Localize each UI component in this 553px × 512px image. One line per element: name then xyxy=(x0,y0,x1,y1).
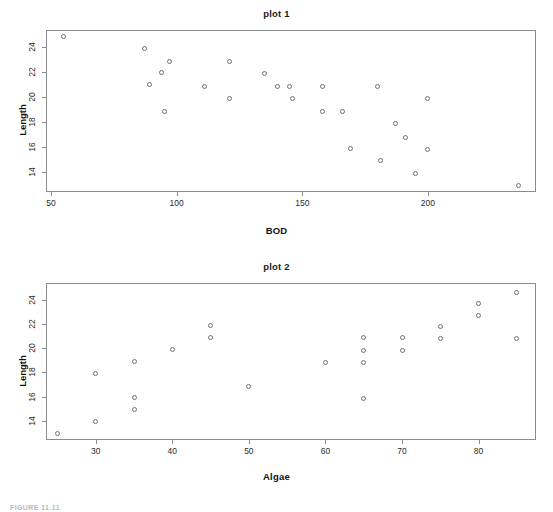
y-tick-label: 22 xyxy=(27,68,37,77)
y-tick-label: 22 xyxy=(27,319,37,328)
data-point xyxy=(287,84,292,89)
data-point xyxy=(227,96,232,101)
y-axis-title-2: Length xyxy=(17,355,28,387)
data-point xyxy=(403,135,408,140)
y-tick-mark xyxy=(42,97,46,98)
data-point xyxy=(167,59,172,64)
y-tick-label: 18 xyxy=(27,368,37,377)
data-point xyxy=(147,82,152,87)
y-tick-mark xyxy=(42,421,46,422)
data-point xyxy=(159,70,164,75)
plot-frame-1 xyxy=(46,30,536,192)
y-tick-mark xyxy=(42,47,46,48)
data-point xyxy=(438,336,443,341)
y-tick-label: 16 xyxy=(27,142,37,151)
x-tick-label: 40 xyxy=(168,446,177,456)
figure-caption: FIGURE 11.11 xyxy=(10,504,60,512)
data-point xyxy=(275,84,280,89)
data-point xyxy=(142,46,147,51)
x-tick-mark xyxy=(402,440,403,444)
y-tick-label: 24 xyxy=(27,43,37,52)
y-tick-label: 20 xyxy=(27,343,37,352)
data-point xyxy=(202,84,207,89)
y-axis-title-1: Length xyxy=(17,104,28,136)
x-tick-mark xyxy=(302,192,303,196)
plot-frame-2 xyxy=(46,283,536,440)
x-tick-mark xyxy=(96,440,97,444)
y-tick-label: 24 xyxy=(27,295,37,304)
data-point xyxy=(132,407,137,412)
data-point xyxy=(400,335,405,340)
x-tick-label: 200 xyxy=(421,198,435,208)
chart-panel-plot-2: plot 2 Length 304050607080141618202224 A… xyxy=(0,253,553,496)
data-point xyxy=(320,109,325,114)
y-tick-label: 16 xyxy=(27,392,37,401)
data-point xyxy=(290,96,295,101)
y-tick-mark xyxy=(42,324,46,325)
x-tick-mark xyxy=(428,192,429,196)
data-point xyxy=(320,84,325,89)
y-tick-mark xyxy=(42,72,46,73)
x-axis-title-1: BOD xyxy=(0,225,553,236)
data-point xyxy=(227,59,232,64)
x-tick-label: 150 xyxy=(295,198,309,208)
x-tick-label: 60 xyxy=(321,446,330,456)
x-tick-label: 50 xyxy=(46,198,55,208)
x-tick-label: 30 xyxy=(91,446,100,456)
y-tick-mark xyxy=(42,372,46,373)
y-tick-mark xyxy=(42,122,46,123)
data-point xyxy=(61,34,66,39)
data-point xyxy=(400,348,405,353)
plot-title-2: plot 2 xyxy=(0,261,553,272)
data-point xyxy=(375,84,380,89)
data-point xyxy=(170,347,175,352)
y-tick-mark xyxy=(42,172,46,173)
x-tick-label: 100 xyxy=(170,198,184,208)
data-point xyxy=(132,395,137,400)
x-tick-mark xyxy=(479,440,480,444)
x-tick-mark xyxy=(249,440,250,444)
data-point xyxy=(208,323,213,328)
data-point xyxy=(438,324,443,329)
data-point xyxy=(132,359,137,364)
data-point xyxy=(348,146,353,151)
y-tick-mark xyxy=(42,348,46,349)
x-tick-mark xyxy=(177,192,178,196)
data-point xyxy=(340,109,345,114)
y-tick-mark xyxy=(42,397,46,398)
y-tick-mark xyxy=(42,300,46,301)
x-tick-mark xyxy=(325,440,326,444)
x-tick-label: 50 xyxy=(244,446,253,456)
data-point xyxy=(413,171,418,176)
x-tick-label: 70 xyxy=(397,446,406,456)
x-tick-mark xyxy=(51,192,52,196)
y-tick-label: 14 xyxy=(27,167,37,176)
y-tick-label: 18 xyxy=(27,117,37,126)
data-point xyxy=(162,109,167,114)
data-point xyxy=(393,121,398,126)
chart-panel-plot-1: plot 1 Length 50100150200141618202224 BO… xyxy=(0,0,553,253)
x-tick-label: 80 xyxy=(474,446,483,456)
y-tick-label: 14 xyxy=(27,416,37,425)
y-tick-label: 20 xyxy=(27,93,37,102)
x-axis-title-2: Algae xyxy=(0,471,553,482)
plot-title-1: plot 1 xyxy=(0,8,553,19)
x-tick-mark xyxy=(172,440,173,444)
y-tick-mark xyxy=(42,147,46,148)
data-point xyxy=(208,335,213,340)
